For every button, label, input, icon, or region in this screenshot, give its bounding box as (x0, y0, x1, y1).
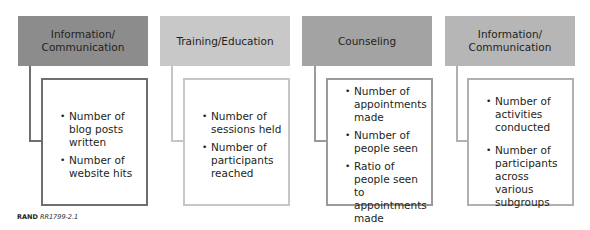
column-1-title-line-1: Information/ (51, 28, 115, 40)
column-4-title-line-1: Information/ (478, 28, 542, 40)
column-1-connector-vertical (29, 66, 31, 142)
column-4-metrics-box: Number of activities conducted Number of… (467, 78, 574, 206)
metric-item: Number of activities conducted (495, 95, 568, 134)
column-1-metrics-list: Number of blog posts written Number of w… (51, 110, 142, 180)
metric-item: Number of appointments made (354, 85, 427, 124)
column-3-metrics-list: Number of appointments made Number of pe… (336, 85, 427, 225)
column-3-connector-vertical (314, 66, 316, 142)
metric-item: Number of sessions held (211, 110, 284, 136)
column-4-title-line-2: Communication (469, 41, 552, 53)
column-3-metrics-box: Number of appointments made Number of pe… (326, 78, 433, 206)
column-2-connector-vertical (171, 66, 173, 142)
column-1-metrics-box: Number of blog posts written Number of w… (41, 78, 148, 206)
column-3-title: Counseling (338, 35, 396, 48)
column-1-title-line-2: Communication (42, 41, 125, 53)
column-2-header: Training/Education (160, 16, 290, 66)
column-2-metrics-list: Number of sessions held Number of partic… (193, 110, 284, 180)
metric-item: Number of participants reached (211, 141, 284, 180)
column-3-header: Counseling (302, 16, 432, 66)
metric-item: Ratio of people seen to appointments mad… (354, 160, 427, 225)
org-label: RAND (17, 213, 38, 221)
metric-item: Number of people seen (354, 129, 427, 155)
column-1-header: Information/Communication (18, 16, 148, 66)
figure-id: RR1799-2.1 (40, 213, 78, 221)
figure-credit: RAND RR1799-2.1 (17, 213, 78, 221)
column-4-header: Information/Communication (445, 16, 575, 66)
column-2-metrics-box: Number of sessions held Number of partic… (183, 78, 290, 206)
column-4-metrics-list: Number of activities conducted Number of… (477, 95, 568, 209)
metric-item: Number of website hits (69, 154, 142, 180)
metric-item: Number of blog posts written (69, 110, 142, 149)
column-2-title: Training/Education (176, 35, 273, 48)
metric-item: Number of participants across various su… (495, 144, 568, 209)
column-4-connector-vertical (456, 66, 458, 142)
